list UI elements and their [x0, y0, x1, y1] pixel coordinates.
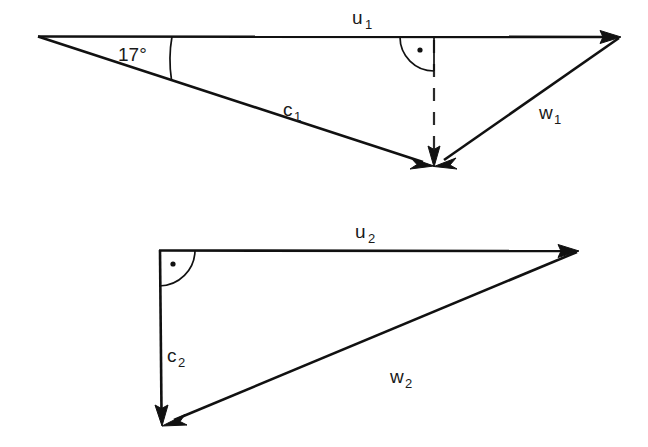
vector-w1-shaft: [444, 38, 619, 160]
label-angle-17: 17°: [118, 44, 147, 65]
vector-u2: [159, 245, 579, 258]
vector-w2: [162, 252, 577, 426]
triangle-2-group: u 2 c 2 w 2: [155, 221, 579, 426]
right-angle-arc-1: [400, 37, 434, 71]
right-angle-marker-1: [400, 37, 434, 71]
label-w1: w 1: [538, 102, 561, 127]
projection-arrowhead: [428, 146, 440, 167]
label-c2: c 2: [167, 345, 185, 370]
vector-u1-shaft: [38, 37, 609, 38]
label-w2-base: w: [389, 366, 404, 387]
vector-c2: [155, 250, 168, 426]
vector-c2-shaft: [160, 250, 162, 411]
label-u1: u 1: [352, 7, 372, 32]
angle-arc-path: [170, 37, 172, 81]
vector-c1-arrowhead: [410, 158, 434, 169]
label-c2-base: c: [167, 345, 177, 366]
right-angle-arc-2: [159, 250, 195, 286]
right-angle-dot-1: [417, 47, 422, 52]
triangle-1-group: u 1 c 1 w 1 17°: [38, 7, 621, 169]
label-u2: u 2: [355, 221, 375, 246]
label-w2-subscript: 2: [405, 376, 412, 391]
vector-u2-shaft: [159, 251, 567, 252]
vector-triangle-diagram: u 1 c 1 w 1 17°: [0, 0, 648, 447]
vector-w2-shaft: [174, 252, 577, 420]
right-angle-dot-2: [170, 261, 175, 266]
label-u2-subscript: 2: [368, 231, 375, 246]
label-c2-subscript: 2: [178, 355, 185, 370]
label-c1-base: c: [283, 99, 293, 120]
vector-c1: [38, 37, 434, 170]
label-w1-subscript: 1: [554, 112, 561, 127]
diagram-canvas: u 1 c 1 w 1 17°: [0, 0, 648, 447]
vector-u1: [38, 31, 621, 44]
label-c1-subscript: 1: [294, 109, 301, 124]
label-u1-subscript: 1: [365, 17, 372, 32]
label-u2-base: u: [355, 221, 366, 242]
vector-w2-arrowhead: [162, 415, 187, 427]
vector-c1-shaft: [38, 37, 423, 163]
right-angle-marker-2: [159, 250, 195, 286]
label-w1-base: w: [538, 102, 553, 123]
vector-c2-arrowhead: [155, 405, 168, 426]
label-w2: w 2: [389, 366, 412, 391]
angle-arc-17-degrees: [170, 37, 172, 81]
vector-u1-arrowhead: [600, 31, 621, 44]
label-u1-base: u: [352, 7, 363, 28]
vector-w1: [434, 38, 619, 169]
